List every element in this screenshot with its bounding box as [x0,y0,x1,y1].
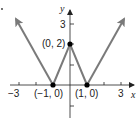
point-label-0-2: (0, 2) [42,38,65,49]
x-tick-label-neg3: −3 [8,88,20,99]
left-ray [16,19,53,85]
x-axis-label: x [130,89,136,100]
point-0-2 [67,41,72,46]
x-tick-label-3: 3 [118,88,124,99]
point-label-1-0: (1, 0) [75,88,98,99]
y-tick-label-3: 3 [60,19,66,30]
graph-plot: y x 3 −3 3 (0, 2) (−1, 0) (1, 0) [0,0,140,121]
right-ray [87,19,124,85]
point-label-neg1-0: (−1, 0) [34,88,63,99]
y-ticks [70,24,74,106]
point-neg1-0 [50,82,55,87]
point-1-0 [84,82,89,87]
problem-bullet [1,8,3,10]
y-axis-label: y [59,3,65,14]
